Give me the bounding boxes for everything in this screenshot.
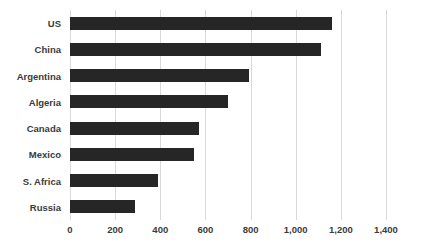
bar[interactable] xyxy=(70,122,199,135)
category-label-s-africa: S. Africa xyxy=(23,175,61,186)
x-tick-label-800: 800 xyxy=(243,224,259,235)
bar-row[interactable] xyxy=(70,168,386,194)
bar-row[interactable] xyxy=(70,89,386,115)
bar[interactable] xyxy=(70,95,228,108)
x-tick-label-600: 600 xyxy=(197,224,213,235)
bar-row[interactable] xyxy=(70,141,386,167)
category-axis: USChinaArgentinaAlgeriaCanadaMexicoS. Af… xyxy=(0,10,66,220)
gridline-1400 xyxy=(386,10,387,220)
bar[interactable] xyxy=(70,69,249,82)
bar[interactable] xyxy=(70,200,135,213)
bar-row[interactable] xyxy=(70,194,386,220)
category-label-canada: Canada xyxy=(27,123,61,134)
bar-row[interactable] xyxy=(70,63,386,89)
category-label-china: China xyxy=(35,44,61,55)
bar-row[interactable] xyxy=(70,36,386,62)
category-label-algeria: Algeria xyxy=(29,96,61,107)
x-tick-label-1400: 1,400 xyxy=(374,224,398,235)
category-label-russia: Russia xyxy=(30,201,61,212)
category-label-argentina: Argentina xyxy=(17,70,61,81)
bar[interactable] xyxy=(70,43,321,56)
bar[interactable] xyxy=(70,174,158,187)
x-tick-label-1200: 1,200 xyxy=(329,224,353,235)
bar[interactable] xyxy=(70,148,194,161)
x-tick-label-200: 200 xyxy=(107,224,123,235)
category-label-us: US xyxy=(48,18,61,29)
bar[interactable] xyxy=(70,17,332,30)
plot-area xyxy=(70,10,386,220)
bar-row[interactable] xyxy=(70,10,386,36)
bar-chart: USChinaArgentinaAlgeriaCanadaMexicoS. Af… xyxy=(0,0,421,252)
x-tick-label-1000: 1,000 xyxy=(284,224,308,235)
x-tick-label-400: 400 xyxy=(152,224,168,235)
x-tick-label-0: 0 xyxy=(67,224,72,235)
category-label-mexico: Mexico xyxy=(29,149,61,160)
bar-series xyxy=(70,10,386,220)
value-axis: 02004006008001,0001,2001,400 xyxy=(70,224,386,242)
bar-row[interactable] xyxy=(70,115,386,141)
